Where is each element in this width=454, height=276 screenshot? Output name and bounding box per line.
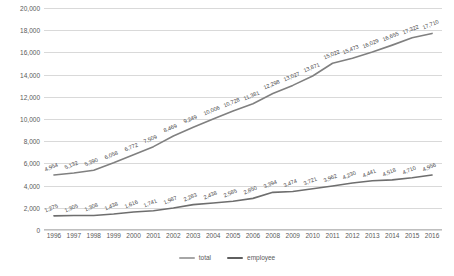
y-axis-tick-label: 2,000: [0, 204, 40, 211]
y-axis-tick-label: 0: [0, 227, 40, 234]
legend-swatch-icon: [227, 257, 243, 259]
x-axis-tick-label: 2002: [166, 232, 180, 239]
x-axis-tick-label: 2006: [246, 232, 260, 239]
x-axis-tick-label: 2014: [385, 232, 399, 239]
y-axis-tick-label: 16,000: [0, 49, 40, 56]
legend-item-total[interactable]: total: [179, 254, 211, 261]
legend-swatch-icon: [179, 257, 195, 259]
y-axis-tick-label: 10,000: [0, 116, 40, 123]
y-axis-tick-label: 20,000: [0, 5, 40, 12]
x-axis-tick-label: 2012: [345, 232, 359, 239]
x-axis-tick-label: 2016: [425, 232, 439, 239]
x-axis-tick-label: 2013: [365, 232, 379, 239]
x-axis-tick-label: 1996: [47, 232, 61, 239]
chart-legend: totalemployee: [0, 254, 454, 261]
y-axis-tick-label: 18,000: [0, 27, 40, 34]
legend-label: employee: [247, 254, 275, 261]
x-axis: 1996199719981999200020012002200320042005…: [44, 232, 442, 246]
x-axis-tick-label: 2010: [305, 232, 319, 239]
x-axis-tick-label: 2004: [206, 232, 220, 239]
y-axis-tick-label: 8,000: [0, 138, 40, 145]
x-axis-tick-label: 2015: [405, 232, 419, 239]
x-axis-tick-label: 2000: [126, 232, 140, 239]
x-axis-tick-label: 2003: [186, 232, 200, 239]
plot-area: 4,9545,1325,3906,0586,7727,5098,4699,249…: [44, 8, 442, 230]
legend-label: total: [199, 254, 211, 261]
series-line-employee: [54, 175, 432, 216]
x-axis-tick-label: 1998: [87, 232, 101, 239]
x-axis-tick-label: 2001: [146, 232, 160, 239]
x-axis-tick-label: 1997: [67, 232, 81, 239]
x-axis-tick-label: 2009: [286, 232, 300, 239]
x-axis-tick-label: 2011: [326, 232, 340, 239]
y-axis-tick-label: 4,000: [0, 182, 40, 189]
grid-line: [44, 230, 442, 231]
y-axis-tick-label: 14,000: [0, 71, 40, 78]
y-axis-tick-label: 6,000: [0, 160, 40, 167]
y-axis-tick-label: 12,000: [0, 93, 40, 100]
line-chart: 02,0004,0006,0008,00010,00012,00014,0001…: [0, 0, 454, 276]
x-axis-tick-label: 1999: [106, 232, 120, 239]
x-axis-tick-label: 2008: [266, 232, 280, 239]
legend-item-employee[interactable]: employee: [227, 254, 275, 261]
y-axis: 02,0004,0006,0008,00010,00012,00014,0001…: [0, 8, 44, 230]
x-axis-tick-label: 2005: [226, 232, 240, 239]
